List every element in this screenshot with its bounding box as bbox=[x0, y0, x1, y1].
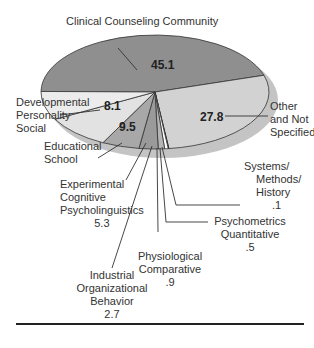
value-developmental: 8.1 bbox=[104, 99, 121, 113]
label-other: Other and Not Specified bbox=[270, 100, 314, 139]
label-experimental: Experimental Cognitive Psycholinguistics… bbox=[60, 178, 144, 230]
value-clinical: 45.1 bbox=[151, 58, 174, 72]
label-developmental: Developmental Personality Social bbox=[16, 96, 89, 135]
label-exp-value: 5.3 bbox=[60, 217, 144, 230]
value-educational: 9.5 bbox=[119, 120, 136, 134]
label-other-line3: Specified bbox=[270, 126, 314, 139]
label-other-line1: Other bbox=[270, 100, 314, 113]
label-clinical: Clinical Counseling Community bbox=[66, 15, 218, 28]
label-dev-line1: Developmental bbox=[16, 96, 89, 109]
label-psy-line2: Quantitative bbox=[210, 228, 290, 241]
label-sys-line2: Methods/ bbox=[244, 173, 301, 186]
label-ind-line3: Behavior bbox=[67, 295, 157, 308]
label-exp-line3: Psycholinguistics bbox=[60, 204, 144, 217]
label-psy-value: .5 bbox=[210, 241, 290, 254]
label-edu-line1: Educational bbox=[44, 140, 102, 153]
label-systems: Systems/ Methods/ History .1 bbox=[244, 160, 301, 212]
label-phys-line2: Comparative bbox=[130, 263, 210, 276]
label-dev-line3: Social bbox=[16, 122, 89, 135]
label-exp-line2: Cognitive bbox=[60, 191, 144, 204]
label-other-line2: and Not bbox=[270, 113, 314, 126]
label-phys-line1: Physiological bbox=[130, 250, 210, 263]
label-educational: Educational School bbox=[44, 140, 102, 166]
label-ind-value: 2.7 bbox=[67, 308, 157, 321]
value-other: 27.8 bbox=[200, 110, 223, 124]
label-psy-line1: Psychometrics bbox=[210, 215, 290, 228]
label-dev-line2: Personality bbox=[16, 109, 89, 122]
label-exp-line1: Experimental bbox=[60, 178, 144, 191]
label-edu-line2: School bbox=[44, 153, 102, 166]
label-phys-value: .9 bbox=[130, 276, 210, 289]
bottom-rule bbox=[16, 323, 304, 325]
label-sys-line3: History bbox=[244, 186, 301, 199]
label-sys-line1: Systems/ bbox=[244, 160, 301, 173]
label-sys-value: .1 bbox=[244, 199, 301, 212]
